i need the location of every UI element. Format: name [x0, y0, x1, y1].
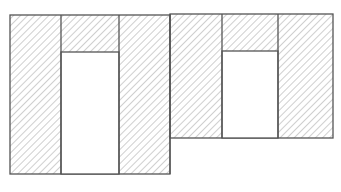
cross-section-diagram: [0, 0, 341, 192]
right-block-recess: [222, 51, 278, 138]
left-block: [10, 15, 170, 174]
right-block: [170, 14, 333, 138]
left-block-recess: [61, 52, 119, 174]
